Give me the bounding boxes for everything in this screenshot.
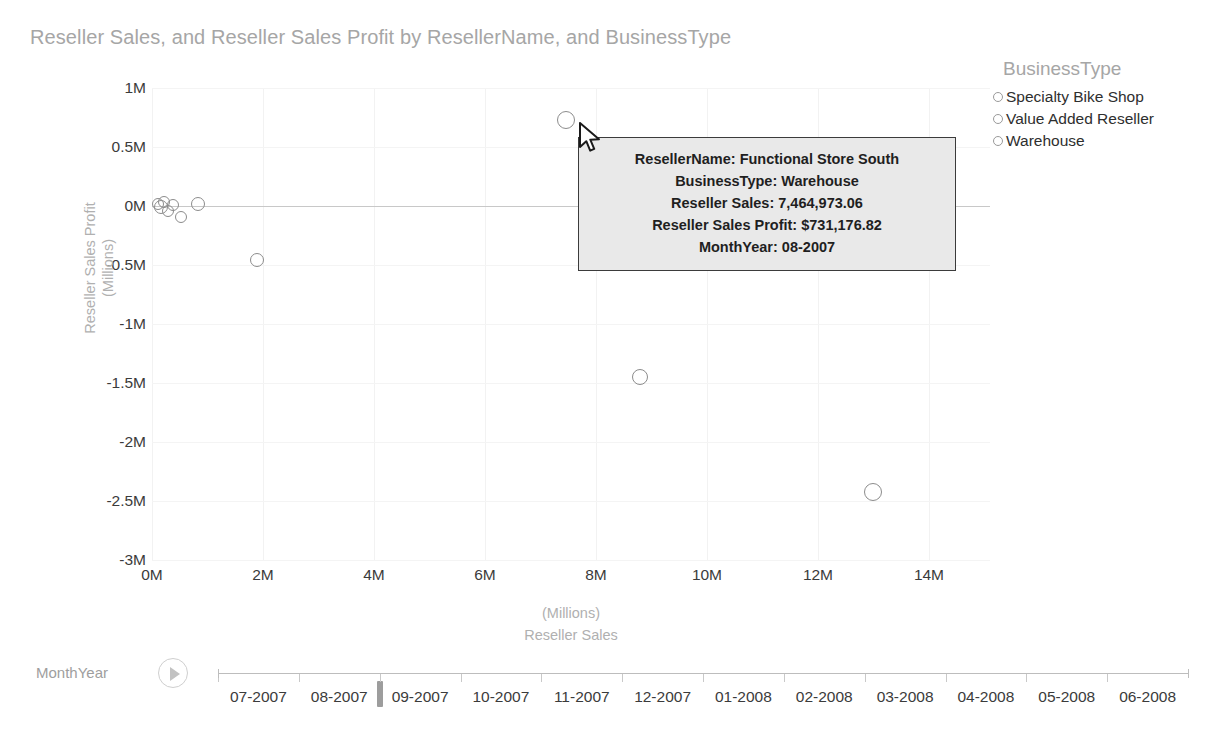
y-gridline — [152, 324, 990, 325]
x-tick-label: 14M — [914, 566, 944, 584]
y-gridline — [152, 88, 990, 89]
timeline-tick-labels: 07-200708-200709-200710-200711-200712-20… — [0, 688, 1228, 714]
legend-marker-circle-icon — [993, 136, 1003, 146]
legend: BusinessType Specialty Bike ShopValue Ad… — [993, 58, 1223, 152]
y-gridline — [152, 560, 990, 561]
play-triangle-icon — [170, 667, 180, 681]
play-icon[interactable] — [158, 658, 188, 688]
legend-item-label: Warehouse — [1006, 132, 1085, 150]
legend-item[interactable]: Specialty Bike Shop — [993, 86, 1223, 108]
legend-items: Specialty Bike ShopValue Added ResellerW… — [993, 86, 1223, 152]
y-axis-title: Reseller Sales Profit (Millions) — [81, 153, 117, 383]
legend-item-label: Specialty Bike Shop — [1006, 88, 1144, 106]
timeline-tick-label[interactable]: 11-2007 — [554, 688, 610, 706]
timeline-field-label: MonthYear — [36, 664, 108, 681]
timeline-end-cap — [1188, 669, 1189, 678]
timeline-tick-mark — [865, 674, 866, 682]
y-tick-label: -2M — [36, 433, 146, 451]
tooltip-row: MonthYear: 08-2007 — [593, 236, 941, 258]
timeline-tick-mark — [541, 674, 542, 682]
timeline-tick-mark — [946, 674, 947, 682]
x-tick-label: 10M — [692, 566, 722, 584]
timeline-slider-track[interactable] — [218, 673, 1188, 674]
timeline-tick-mark — [380, 674, 381, 682]
data-point-marker[interactable] — [175, 211, 187, 223]
y-tick-label: -2.5M — [36, 492, 146, 510]
timeline-tick-label[interactable]: 06-2008 — [1119, 688, 1176, 706]
data-point-marker[interactable] — [167, 199, 179, 211]
legend-item-label: Value Added Reseller — [1006, 110, 1154, 128]
y-axis-title-name: Reseller Sales Profit — [82, 202, 98, 333]
y-axis-title-unit: (Millions) — [99, 153, 117, 383]
legend-item[interactable]: Warehouse — [993, 130, 1223, 152]
timeline-end-cap — [218, 669, 219, 678]
timeline-playback-control[interactable]: MonthYear 07-200708-200709-200710-200711… — [0, 652, 1228, 742]
timeline-tick-label[interactable]: 04-2008 — [957, 688, 1014, 706]
page-title: Reseller Sales, and Reseller Sales Profi… — [30, 26, 731, 49]
timeline-tick-label[interactable]: 12-2007 — [634, 688, 691, 706]
y-gridline — [152, 383, 990, 384]
timeline-tick-mark — [461, 674, 462, 682]
x-tick-label: 0M — [141, 566, 163, 584]
tooltip-row: BusinessType: Warehouse — [593, 170, 941, 192]
timeline-tick-mark — [703, 674, 704, 682]
tooltip-row: Reseller Sales Profit: $731,176.82 — [593, 214, 941, 236]
timeline-tick-mark — [299, 674, 300, 682]
timeline-tick-label[interactable]: 03-2008 — [877, 688, 934, 706]
legend-marker-circle-icon — [993, 114, 1003, 124]
data-point-marker[interactable] — [557, 111, 575, 129]
x-axis-title-name: Reseller Sales — [524, 627, 618, 643]
y-gridline — [152, 442, 990, 443]
data-point-marker[interactable] — [250, 253, 264, 267]
x-tick-label: 12M — [803, 566, 833, 584]
tooltip-row: ResellerName: Functional Store South — [593, 148, 941, 170]
x-tick-label: 2M — [252, 566, 274, 584]
timeline-tick-mark — [1107, 674, 1108, 682]
timeline-tick-label[interactable]: 10-2007 — [472, 688, 529, 706]
data-point-marker[interactable] — [864, 483, 882, 501]
y-tick-label: -3M — [36, 551, 146, 569]
timeline-tick-label[interactable]: 01-2008 — [715, 688, 772, 706]
x-axis-title: (Millions) Reseller Sales — [152, 602, 990, 646]
timeline-tick-label[interactable]: 09-2007 — [392, 688, 449, 706]
x-tick-label: 6M — [474, 566, 496, 584]
x-axis-title-unit: (Millions) — [152, 602, 990, 624]
timeline-tick-mark — [784, 674, 785, 682]
data-point-marker[interactable] — [632, 369, 648, 385]
legend-title: BusinessType — [1003, 58, 1223, 80]
tooltip-row: Reseller Sales: 7,464,973.06 — [593, 192, 941, 214]
timeline-tick-mark — [622, 674, 623, 682]
timeline-tick-label[interactable]: 05-2008 — [1038, 688, 1095, 706]
timeline-tick-label[interactable]: 02-2008 — [796, 688, 853, 706]
y-gridline — [152, 501, 990, 502]
y-tick-label: 1M — [36, 79, 146, 97]
x-tick-label: 4M — [363, 566, 385, 584]
timeline-tick-mark — [1026, 674, 1027, 682]
timeline-tick-label[interactable]: 08-2007 — [311, 688, 368, 706]
legend-marker-circle-icon — [993, 92, 1003, 102]
data-point-tooltip: ResellerName: Functional Store SouthBusi… — [578, 137, 956, 271]
x-axis-tick-labels: 0M2M4M6M8M10M12M14M — [152, 566, 990, 588]
legend-item[interactable]: Value Added Reseller — [993, 108, 1223, 130]
timeline-tick-label[interactable]: 07-2007 — [230, 688, 287, 706]
x-tick-label: 8M — [585, 566, 607, 584]
data-point-marker[interactable] — [191, 197, 205, 211]
